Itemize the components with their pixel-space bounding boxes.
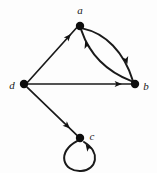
figure-canvas: abcd [0,0,157,173]
edge-b-a [81,30,131,81]
edge-a-b [83,29,133,81]
arrowheads-layer [63,32,131,152]
edges-layer [27,28,133,171]
nodes-layer [20,22,139,142]
node-label-b: b [143,80,149,92]
node-a[interactable] [76,22,84,30]
node-c[interactable] [76,134,84,142]
node-b[interactable] [131,80,139,88]
node-label-c: c [90,130,95,142]
node-label-a: a [77,4,83,16]
directed-graph: abcd [0,0,157,173]
node-d[interactable] [20,80,28,88]
node-label-d: d [9,79,15,91]
edge-c-c [64,141,95,171]
